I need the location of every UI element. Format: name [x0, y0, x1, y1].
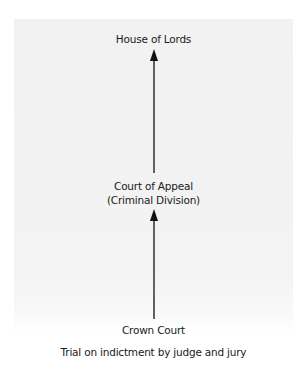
arrow-up-icon	[147, 49, 161, 173]
node-court-of-appeal-line1: Court of Appeal	[0, 180, 307, 193]
arrow-crown-to-appeal	[147, 209, 161, 319]
node-court-of-appeal-line2: (Criminal Division)	[0, 194, 307, 207]
node-crown-court: Crown Court	[0, 324, 307, 337]
node-house-of-lords: House of Lords	[0, 33, 307, 46]
arrow-up-icon	[147, 209, 161, 319]
diagram-caption: Trial on indictment by judge and jury	[0, 346, 307, 359]
arrow-appeal-to-lords	[147, 49, 161, 173]
